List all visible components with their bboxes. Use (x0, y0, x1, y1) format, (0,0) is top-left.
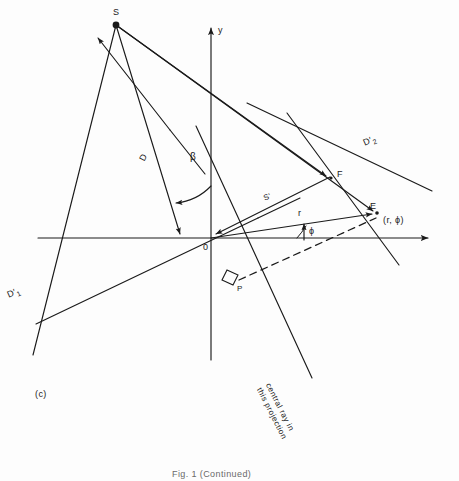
beta-angle-arc (176, 186, 211, 203)
d1-direction-extension (170, 130, 205, 174)
figure-panel-c: S y 0 D β S' F r ϕ E (r, ϕ) P D′1 D′2 ce… (0, 0, 459, 481)
label-origin: 0 (203, 243, 208, 252)
right-angle-marker (222, 270, 238, 285)
element-point-marker (375, 211, 379, 215)
label-beta: β (190, 152, 196, 162)
label-phi: ϕ (309, 227, 314, 236)
label-E: E (370, 202, 376, 211)
label-source-S: S (113, 8, 119, 17)
dashed-perpendicular-P-to-E (239, 218, 376, 280)
r-vector (211, 214, 372, 238)
detector-line-D1-prime (36, 218, 258, 324)
ray-source-to-origin-arrow (116, 25, 180, 234)
ray-source-to-E (116, 25, 373, 211)
focus-point-marker (329, 176, 332, 179)
central-ray-line (196, 126, 312, 378)
phi-angle-arc (297, 226, 306, 238)
technical-diagram-svg (0, 0, 459, 481)
figure-caption: Fig. 1 (Continued) (172, 470, 251, 479)
label-E-coordinates: (r, ϕ) (383, 216, 404, 225)
source-point-marker (113, 22, 120, 29)
label-y-axis: y (218, 26, 223, 35)
label-P: P (237, 285, 243, 293)
d2-crossing-line (287, 113, 399, 265)
panel-label: (c) (35, 390, 47, 399)
label-r: r (298, 209, 301, 218)
label-F: F (337, 170, 343, 179)
